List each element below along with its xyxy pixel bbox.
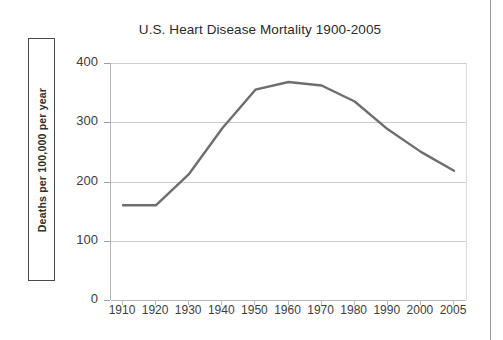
data-line-chart — [111, 63, 466, 300]
series-line-heart-disease-mortality — [123, 82, 454, 205]
y-tick-mark — [104, 300, 110, 301]
y-tick-label: 0 — [58, 291, 98, 306]
y-tick-label: 200 — [58, 173, 98, 188]
gridline — [111, 300, 466, 301]
plot-area — [110, 63, 467, 300]
chart-title: U.S. Heart Disease Mortality 1900-2005 — [95, 22, 425, 37]
y-tick-label: 400 — [58, 54, 98, 69]
y-tick-label: 300 — [58, 113, 98, 128]
chart-page: U.S. Heart Disease Mortality 1900-2005 D… — [0, 0, 503, 340]
page-border-line — [490, 0, 491, 340]
y-axis-label: Deaths per 100,000 per year — [36, 87, 48, 231]
y-axis-label-box: Deaths per 100,000 per year — [28, 38, 55, 281]
y-tick-label: 100 — [58, 232, 98, 247]
x-tick-label: 2005 — [433, 303, 473, 317]
